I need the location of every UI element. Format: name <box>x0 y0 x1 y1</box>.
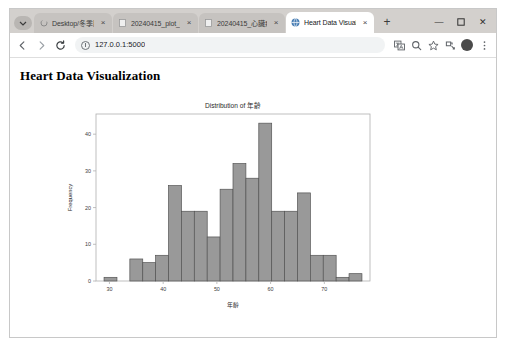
forward-button[interactable] <box>33 37 50 54</box>
tab-title: Desktop/冬季服裝 <box>52 19 94 28</box>
tab-strip: Desktop/冬季服裝 × 20240415_plot_D × <box>10 9 496 33</box>
tab-title: 20240415_心臟病 <box>217 19 267 28</box>
address-bar[interactable]: 127.0.0.1:5000 <box>75 37 385 53</box>
window-maximize-button[interactable] <box>450 12 472 32</box>
histogram-bar <box>246 178 259 281</box>
histogram-bar <box>297 193 310 281</box>
tab-title: 20240415_plot_D <box>131 19 180 28</box>
browser-window: Desktop/冬季服裝 × 20240415_plot_D × <box>9 8 497 338</box>
histogram-bar <box>130 259 143 281</box>
extensions-icon[interactable] <box>442 37 458 53</box>
histogram-bar <box>220 189 233 281</box>
chevron-down-icon <box>19 21 27 26</box>
tab-heart-data-visualization[interactable]: Heart Data Visual × <box>286 12 374 33</box>
x-tick-label: 70 <box>321 286 327 292</box>
translate-icon[interactable] <box>391 37 407 53</box>
x-axis-label: 年齡 <box>227 301 239 309</box>
tab-close-icon[interactable]: × <box>271 18 281 28</box>
search-icon[interactable] <box>408 37 424 53</box>
back-button[interactable] <box>14 37 31 54</box>
tab-search-button[interactable] <box>14 16 32 30</box>
y-tick-label: 20 <box>85 205 91 211</box>
histogram-bar <box>259 123 272 281</box>
tab-close-icon[interactable]: × <box>184 18 194 28</box>
histogram-bar <box>181 211 194 281</box>
histogram-svg: 0102030403040506070Distribution of 年齡年齡F… <box>62 96 374 311</box>
page-content: Heart Data Visualization 010203040304050… <box>10 58 496 337</box>
toolbar-icons <box>390 37 492 53</box>
avatar <box>461 39 473 51</box>
histogram-bar <box>169 186 182 281</box>
histogram-bar <box>272 211 285 281</box>
histogram-bar <box>310 255 323 281</box>
y-tick-label: 10 <box>85 241 91 247</box>
tab-plot-d[interactable]: 20240415_plot_D × <box>113 13 198 33</box>
browser-toolbar: 127.0.0.1:5000 <box>10 33 496 58</box>
reload-button[interactable] <box>52 37 69 54</box>
globe-icon <box>291 18 300 27</box>
arrow-right-icon <box>36 40 47 51</box>
y-tick-label: 0 <box>88 278 91 284</box>
bars <box>104 123 362 281</box>
window-controls: — ✕ <box>428 11 496 33</box>
address-bar-url: 127.0.0.1:5000 <box>95 40 145 50</box>
new-tab-button[interactable]: + <box>378 13 396 31</box>
histogram-bar <box>104 277 117 281</box>
file-icon <box>118 19 127 28</box>
x-tick-label: 50 <box>214 286 220 292</box>
histogram-bar <box>207 237 220 281</box>
window-minimize-button[interactable]: — <box>428 12 450 32</box>
histogram-chart: 0102030403040506070Distribution of 年齡年齡F… <box>62 96 374 311</box>
histogram-bar <box>336 277 349 281</box>
bookmark-star-icon[interactable] <box>425 37 441 53</box>
arrow-left-icon <box>17 40 28 51</box>
loading-spinner-icon <box>39 19 48 28</box>
histogram-bar <box>156 255 169 281</box>
histogram-bar <box>285 211 298 281</box>
more-menu-icon[interactable] <box>476 37 492 53</box>
histogram-bar <box>194 211 207 281</box>
chart-title: Distribution of 年齡 <box>205 101 261 110</box>
tab-close-icon[interactable]: × <box>360 18 370 28</box>
histogram-bar <box>349 274 362 281</box>
tab-desktop-winter[interactable]: Desktop/冬季服裝 × <box>34 13 112 33</box>
histogram-bar <box>143 263 156 281</box>
histogram-bar <box>233 164 246 281</box>
tab-title: Heart Data Visual <box>304 18 356 27</box>
reload-icon <box>55 40 66 51</box>
profile-avatar-icon[interactable] <box>459 37 475 53</box>
tab-heart-disease[interactable]: 20240415_心臟病 × <box>199 13 285 33</box>
file-icon <box>204 19 213 28</box>
screenshot-root: Desktop/冬季服裝 × 20240415_plot_D × <box>0 0 506 346</box>
x-tick-label: 30 <box>106 286 112 292</box>
histogram-bar <box>323 255 336 281</box>
tab-close-icon[interactable]: × <box>98 18 108 28</box>
y-tick-label: 30 <box>85 168 91 174</box>
window-close-button[interactable]: ✕ <box>472 12 494 32</box>
x-tick-label: 40 <box>160 286 166 292</box>
maximize-icon <box>457 18 465 26</box>
y-tick-label: 40 <box>85 131 91 137</box>
page-title: Heart Data Visualization <box>20 68 496 84</box>
info-circle-icon[interactable] <box>81 41 90 50</box>
y-axis-label: Frequency <box>67 184 73 211</box>
x-tick-label: 60 <box>268 286 274 292</box>
